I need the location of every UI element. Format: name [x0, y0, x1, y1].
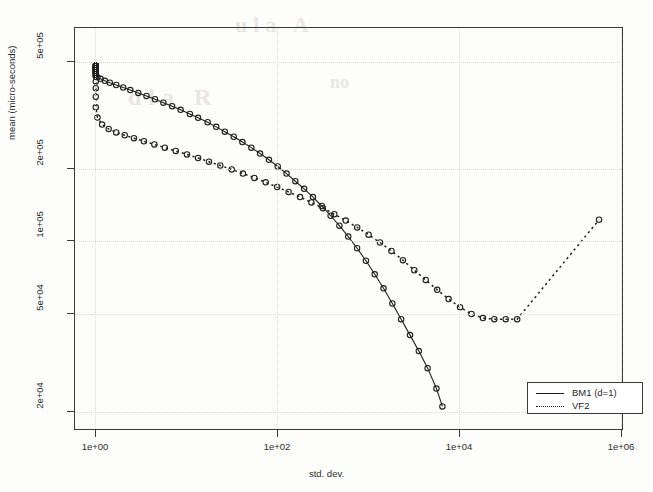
x-tick-label: 1e+06 [591, 441, 651, 452]
data-point-marker [423, 277, 428, 282]
legend-label: VF2 [572, 400, 589, 411]
series-line [96, 65, 443, 406]
x-tick-mark [621, 430, 622, 437]
data-point-marker [309, 200, 314, 205]
y-tick-label: 5e+05 [34, 25, 45, 67]
x-tick-mark [277, 430, 278, 437]
legend-entry-vf2: VF2 [535, 399, 589, 412]
x-tick-label: 1e+00 [65, 441, 125, 452]
legend-key-dashed-line-icon [535, 401, 565, 411]
data-point-marker [389, 248, 394, 253]
x-axis-label: std. dev. [0, 468, 653, 479]
y-tick-label: 2e+04 [34, 375, 45, 417]
x-tick-mark [459, 430, 460, 437]
y-tick-mark [67, 240, 74, 241]
data-series-canvas [75, 28, 623, 430]
data-point-marker [99, 122, 104, 127]
y-tick-mark [67, 411, 74, 412]
data-point-marker [446, 296, 451, 301]
gridline-horizontal [75, 314, 622, 315]
legend-entry-bm1: BM1 (d=1) [535, 386, 617, 399]
gridline-vertical [95, 28, 96, 429]
y-tick-mark [67, 61, 74, 62]
x-tick-label: 1e+02 [247, 441, 307, 452]
gridline-horizontal [75, 241, 622, 242]
y-tick-mark [67, 168, 74, 169]
legend-label: BM1 (d=1) [572, 387, 617, 398]
y-axis-label: mean (micro-seconds) [6, 46, 17, 141]
gridline-horizontal [75, 62, 622, 63]
x-tick-label: 1e+04 [429, 441, 489, 452]
legend-key-solid-line-icon [535, 388, 565, 398]
data-point-marker [297, 194, 302, 199]
gridline-vertical [277, 28, 278, 429]
data-point-marker [412, 268, 417, 273]
legend: BM1 (d=1) VF2 [527, 382, 643, 414]
data-point-marker [366, 232, 371, 237]
gridline-vertical [459, 28, 460, 429]
series-vf2 [93, 63, 602, 322]
y-tick-label: 5e+04 [34, 277, 45, 319]
plot-area [74, 27, 623, 430]
y-tick-label: 2e+05 [34, 132, 45, 174]
y-tick-mark [67, 313, 74, 314]
x-tick-mark [95, 430, 96, 437]
gridline-horizontal [75, 169, 622, 170]
data-point-marker [343, 218, 348, 223]
gridline-vertical [621, 28, 622, 429]
figure-scanned-plot: ula A dla R no mean (micro-seconds) 5e+0… [0, 0, 653, 492]
series-bm1 [93, 63, 445, 410]
y-tick-label: 1e+05 [34, 204, 45, 246]
